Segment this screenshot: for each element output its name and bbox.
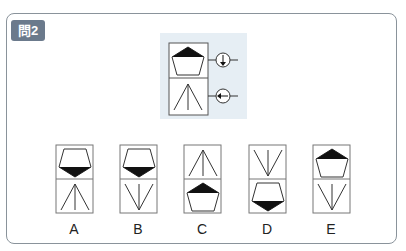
option-a[interactable]	[56, 145, 93, 213]
option-label-d[interactable]: D	[257, 221, 277, 237]
option-c[interactable]	[184, 145, 221, 213]
figures-canvas	[0, 0, 406, 251]
option-d[interactable]	[249, 145, 286, 213]
stimulus-figure	[169, 43, 238, 115]
option-label-b[interactable]: B	[128, 221, 148, 237]
option-label-c[interactable]: C	[192, 221, 212, 237]
option-b[interactable]	[120, 145, 157, 213]
option-label-e[interactable]: E	[321, 221, 341, 237]
option-label-a[interactable]: A	[64, 221, 84, 237]
option-e[interactable]	[313, 145, 350, 213]
